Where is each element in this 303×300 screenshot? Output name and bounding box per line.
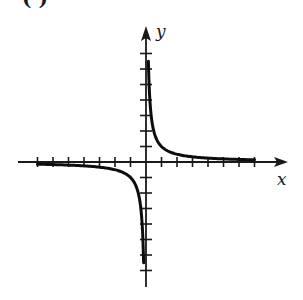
curve-branch-negative — [38, 164, 144, 263]
axes — [18, 26, 288, 287]
y-axis-label: y — [155, 21, 166, 41]
x-axis-label: x — [277, 169, 287, 189]
hyperbola-graph: ( ) y x — [0, 0, 303, 300]
curve-branch-positive — [148, 61, 254, 160]
part-label: ( ) — [22, 0, 48, 10]
